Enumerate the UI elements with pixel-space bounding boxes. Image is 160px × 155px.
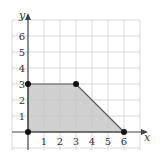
y-tick-label: 5	[19, 47, 25, 58]
x-tick-label: 5	[105, 136, 111, 147]
y-tick-label: 4	[19, 63, 25, 74]
x-tick-label: 1	[41, 136, 47, 147]
x-tick-labels: 1 2 3 4 5 6	[41, 136, 127, 147]
graph: 1 2 3 4 5 6 1 2 3 4 5 6 x y	[0, 0, 160, 155]
y-tick-label: 1	[19, 111, 25, 122]
y-tick-label: 2	[19, 95, 25, 106]
y-axis-label: y	[18, 9, 26, 22]
y-tick-label: 3	[19, 79, 25, 90]
vertex-point	[73, 81, 79, 87]
y-tick-label: 6	[19, 31, 25, 42]
vertex-point	[25, 129, 31, 135]
x-tick-label: 6	[121, 136, 127, 147]
x-tick-label: 2	[57, 136, 63, 147]
y-tick-labels: 1 2 3 4 5 6	[19, 31, 25, 122]
vertex-point	[25, 81, 31, 87]
feasible-region	[28, 84, 124, 132]
y-axis-arrow-icon	[25, 13, 31, 20]
vertex-point	[121, 129, 127, 135]
x-tick-label: 3	[73, 136, 79, 147]
x-axis-label: x	[144, 131, 151, 144]
x-tick-label: 4	[89, 136, 95, 147]
